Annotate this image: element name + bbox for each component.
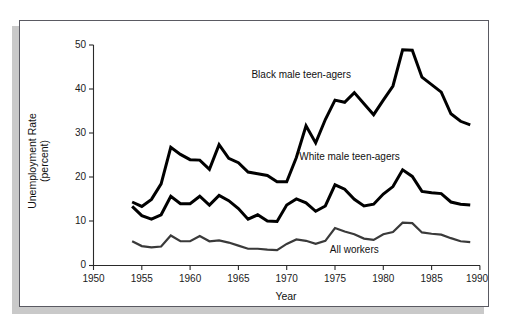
y-axis-title-line1: Unemployment Rate <box>26 113 38 209</box>
x-tick-label-1985: 1985 <box>420 273 443 284</box>
x-axis-tick-labels: 1950 1955 1960 1965 1970 1975 1980 1985 … <box>82 273 488 284</box>
y-axis-tick-labels: 50 40 30 20 10 0 <box>75 39 87 270</box>
series-annotation-black-male-teen-agers: Black male teen-agers <box>251 69 351 80</box>
x-tick-label-1965: 1965 <box>227 273 250 284</box>
y-tick-label-20: 20 <box>75 171 87 182</box>
x-tick-marks <box>94 266 480 271</box>
series-annotations-group: Black male teen-agersWhite male teen-age… <box>251 69 399 255</box>
y-tick-label-10: 10 <box>75 215 87 226</box>
x-axis-title: Year <box>275 290 297 302</box>
y-tick-marks <box>89 45 94 266</box>
screenshot-root: Unemployment Rate (percent) 50 40 30 20 … <box>0 0 505 332</box>
series-annotation-all-workers: All workers <box>330 244 379 255</box>
x-tick-label-1955: 1955 <box>131 273 154 284</box>
chart-figure-frame: Unemployment Rate (percent) 50 40 30 20 … <box>19 20 489 307</box>
unemployment-rate-line-chart: Unemployment Rate (percent) 50 40 30 20 … <box>20 21 488 306</box>
y-tick-label-50: 50 <box>75 39 87 50</box>
y-tick-label-30: 30 <box>75 127 87 138</box>
y-axis-title: Unemployment Rate (percent) <box>26 113 50 209</box>
x-tick-label-1950: 1950 <box>82 273 105 284</box>
x-tick-label-1975: 1975 <box>324 273 347 284</box>
y-tick-label-40: 40 <box>75 83 87 94</box>
x-tick-label-1990: 1990 <box>466 273 488 284</box>
series-line-white-male-teen-agers <box>132 170 470 222</box>
y-tick-label-0: 0 <box>80 259 86 270</box>
series-line-all-workers <box>132 223 470 250</box>
x-tick-label-1980: 1980 <box>372 273 395 284</box>
x-tick-label-1970: 1970 <box>276 273 299 284</box>
series-annotation-white-male-teen-agers: White male teen-agers <box>299 151 400 162</box>
y-axis-title-line2: (percent) <box>38 140 50 182</box>
x-tick-label-1960: 1960 <box>179 273 202 284</box>
